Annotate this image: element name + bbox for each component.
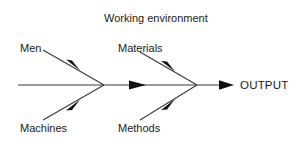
branch-line-methods <box>140 85 197 120</box>
branch-arrow-methods-icon <box>161 99 175 110</box>
branch-line-men <box>43 50 104 85</box>
branch-label-methods: Methods <box>118 122 161 134</box>
branch-arrow-materials-icon <box>161 61 175 72</box>
fishbone-diagram: Working environment Men Machines Materia… <box>0 0 298 144</box>
branch-label-men: Men <box>20 42 41 54</box>
branch-label-machines: Machines <box>20 122 68 134</box>
output-arrow-icon <box>219 80 234 90</box>
output-label: OUTPUT <box>240 79 288 91</box>
spine-mid-arrow-icon <box>129 81 146 90</box>
branch-line-materials <box>140 52 197 85</box>
branch-line-machines <box>43 85 104 120</box>
branch-label-materials: Materials <box>118 42 163 54</box>
fishbone-canvas: Working environment Men Machines Materia… <box>0 0 298 144</box>
diagram-title: Working environment <box>104 12 208 24</box>
